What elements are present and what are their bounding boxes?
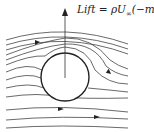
streamline [6, 107, 128, 112]
flow-diagram [0, 0, 154, 132]
streamline [6, 66, 42, 72]
streamline [6, 117, 128, 120]
lift-formula: Lift = ρU∞(−m) [77, 3, 154, 18]
lift-arrowhead-icon [62, 8, 68, 16]
streamline [6, 126, 128, 128]
streamline [6, 75, 41, 80]
flow-arrow-icon [94, 115, 100, 119]
flow-arrow-icon [106, 69, 113, 76]
